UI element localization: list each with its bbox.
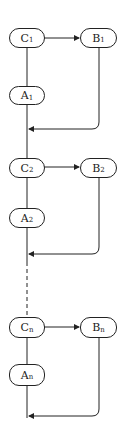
node-a1: A1 [9, 86, 45, 105]
node-a2-subscript: 2 [29, 216, 33, 224]
node-cn: Cn [9, 317, 45, 338]
node-bn: Bn [80, 317, 117, 338]
node-b2: B2 [80, 158, 117, 178]
node-c2-label: C [21, 162, 29, 175]
node-b2-subscript: 2 [100, 166, 104, 174]
node-c2: C2 [9, 158, 45, 178]
node-cn-subscript: n [29, 326, 34, 334]
node-a1-subscript: 1 [29, 94, 33, 102]
node-b1-label: B [92, 32, 100, 45]
node-a1-label: A [21, 89, 29, 102]
node-c1-label: C [21, 32, 29, 45]
node-b1: B1 [80, 28, 117, 48]
node-an: An [9, 364, 45, 386]
node-b2-label: B [92, 162, 100, 175]
node-cn-label: C [21, 321, 29, 334]
node-b1-subscript: 1 [100, 36, 104, 44]
node-c2-subscript: 2 [29, 166, 33, 174]
node-a2: A2 [9, 208, 45, 228]
node-an-subscript: n [29, 373, 34, 381]
node-an-label: A [21, 369, 29, 382]
node-c1-subscript: 1 [29, 36, 33, 44]
node-bn-subscript: n [100, 326, 105, 334]
node-a2-label: A [21, 212, 29, 225]
node-bn-label: B [92, 321, 100, 334]
node-c1: C1 [9, 28, 45, 48]
